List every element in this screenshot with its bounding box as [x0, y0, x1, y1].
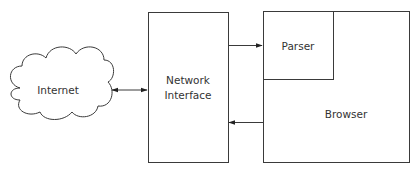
- parser-label: Parser: [282, 40, 316, 52]
- network-label-line2: Interface: [164, 89, 211, 101]
- diagram-canvas: Internet Network Interface Browser Parse…: [0, 0, 416, 170]
- network-label-line1: Network: [166, 74, 211, 86]
- parser-box: Parser: [264, 12, 334, 80]
- internet-label: Internet: [37, 84, 79, 96]
- network-interface-box: Network Interface: [149, 13, 229, 163]
- internet-cloud: Internet: [10, 47, 113, 120]
- browser-label: Browser: [325, 108, 368, 120]
